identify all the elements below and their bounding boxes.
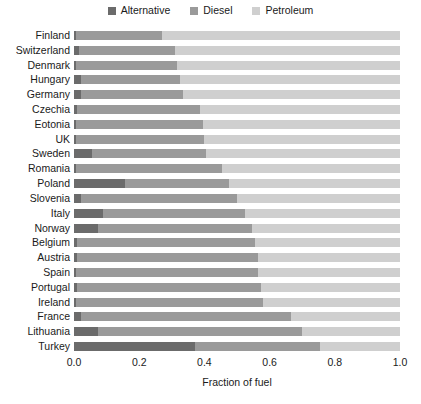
legend-item-alternative: Alternative	[108, 5, 171, 16]
bar-segment-alternative	[74, 327, 98, 336]
bar-segment-diesel	[98, 327, 302, 336]
bar-segment-diesel	[76, 31, 162, 40]
bar-segment-diesel	[76, 164, 223, 173]
plot-area	[74, 28, 400, 354]
bar-segment-diesel	[77, 253, 258, 262]
bar-row	[74, 253, 400, 262]
x-axis-title: Fraction of fuel	[74, 376, 400, 388]
bar-segment-petroleum	[183, 90, 400, 99]
bar-segment-diesel	[76, 120, 203, 129]
bar-segment-petroleum	[180, 75, 400, 84]
bar-segment-diesel	[77, 238, 255, 247]
y-axis-label: Belgium	[0, 237, 70, 248]
bar-segment-alternative	[74, 149, 92, 158]
bar-segment-petroleum	[200, 105, 400, 114]
bar-segment-diesel	[76, 135, 205, 144]
bar-segment-petroleum	[162, 31, 400, 40]
y-axis-label: Poland	[0, 178, 70, 189]
bar-segment-diesel	[195, 342, 321, 351]
bar-row	[74, 327, 400, 336]
y-axis-label: Ireland	[0, 297, 70, 308]
y-axis-label: Germany	[0, 89, 70, 100]
y-axis-label: Finland	[0, 30, 70, 41]
y-axis-label: Hungary	[0, 74, 70, 85]
y-axis-label: Switzerland	[0, 45, 70, 56]
bar-segment-diesel	[76, 61, 177, 70]
y-axis-label: Denmark	[0, 60, 70, 71]
bar-row	[74, 312, 400, 321]
bar-row	[74, 90, 400, 99]
bar-row	[74, 75, 400, 84]
bar-segment-diesel	[79, 46, 175, 55]
legend-swatch-alternative	[108, 7, 116, 15]
bar-segment-diesel	[81, 312, 291, 321]
bar-row	[74, 238, 400, 247]
y-axis-label: Czechia	[0, 104, 70, 115]
bar-segment-petroleum	[291, 312, 400, 321]
x-tick-label: 0.4	[197, 356, 212, 368]
x-tick-label: 0.2	[132, 356, 147, 368]
bar-row	[74, 46, 400, 55]
stacked-bar-chart: Alternative Diesel Petroleum FinlandSwit…	[0, 0, 421, 404]
y-axis-label: Turkey	[0, 341, 70, 352]
bar-segment-petroleum	[177, 61, 400, 70]
legend-swatch-diesel	[190, 7, 198, 15]
bar-segment-petroleum	[255, 238, 400, 247]
bar-row	[74, 209, 400, 218]
bar-row	[74, 61, 400, 70]
bar-segment-diesel	[81, 194, 237, 203]
x-tick-label: 0.0	[67, 356, 82, 368]
bar-segment-petroleum	[237, 194, 400, 203]
bar-row	[74, 283, 400, 292]
bar-row	[74, 164, 400, 173]
bar-row	[74, 31, 400, 40]
bar-segment-diesel	[76, 268, 259, 277]
y-axis-label: Sweden	[0, 148, 70, 159]
bar-segment-petroleum	[175, 46, 400, 55]
bar-segment-diesel	[77, 283, 261, 292]
bar-segment-alternative	[74, 179, 125, 188]
bar-segment-petroleum	[229, 179, 400, 188]
legend-item-petroleum: Petroleum	[252, 5, 313, 16]
legend-label-alternative: Alternative	[121, 5, 171, 16]
legend-label-petroleum: Petroleum	[265, 5, 313, 16]
legend-swatch-petroleum	[252, 7, 260, 15]
x-tick-label: 0.6	[262, 356, 277, 368]
y-axis-label: Spain	[0, 267, 70, 278]
y-axis-label: Austria	[0, 252, 70, 263]
y-axis-label: France	[0, 311, 70, 322]
bar-segment-diesel	[125, 179, 229, 188]
bar-segment-diesel	[77, 105, 199, 114]
bar-segment-petroleum	[245, 209, 400, 218]
bar-row	[74, 268, 400, 277]
bar-row	[74, 149, 400, 158]
bar-segment-petroleum	[302, 327, 400, 336]
bar-row	[74, 298, 400, 307]
bar-segment-petroleum	[203, 120, 400, 129]
bar-segment-alternative	[74, 342, 195, 351]
x-axis-tick-labels: 0.00.20.40.60.81.0	[74, 356, 400, 372]
x-tick-label: 0.8	[327, 356, 342, 368]
y-axis-label: UK	[0, 134, 70, 145]
bar-row	[74, 135, 400, 144]
bar-segment-petroleum	[263, 298, 400, 307]
bar-segment-petroleum	[252, 224, 400, 233]
bar-segment-petroleum	[320, 342, 400, 351]
y-axis-label: Norway	[0, 223, 70, 234]
y-axis-category-labels: FinlandSwitzerlandDenmarkHungaryGermanyC…	[0, 28, 70, 354]
x-tick-label: 1.0	[393, 356, 408, 368]
bar-row	[74, 105, 400, 114]
y-axis-label: Portugal	[0, 282, 70, 293]
chart-legend: Alternative Diesel Petroleum	[0, 5, 421, 16]
y-axis-label: Eotonia	[0, 119, 70, 130]
bar-row	[74, 224, 400, 233]
bar-segment-diesel	[92, 149, 206, 158]
legend-label-diesel: Diesel	[203, 5, 232, 16]
legend-item-diesel: Diesel	[190, 5, 232, 16]
bar-segment-diesel	[98, 224, 251, 233]
bar-segment-diesel	[76, 298, 263, 307]
y-axis-label: Italy	[0, 208, 70, 219]
bar-segment-diesel	[103, 209, 245, 218]
bar-row	[74, 342, 400, 351]
bar-segment-petroleum	[206, 149, 400, 158]
